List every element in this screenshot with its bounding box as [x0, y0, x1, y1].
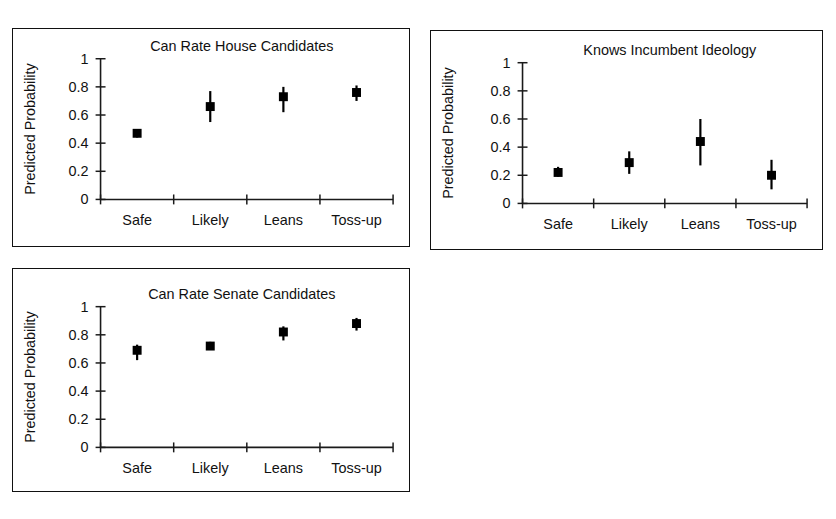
y-tick-label: 0.6 [69, 355, 89, 371]
y-tick-label: 0.4 [69, 383, 89, 399]
y-axis-label: Predicted Probability [22, 62, 38, 194]
y-tick-label: 0.6 [69, 107, 89, 123]
x-tick-label: Leans [681, 216, 720, 232]
y-tick-label: 0 [81, 191, 89, 207]
y-axis-label: Predicted Probability [22, 310, 38, 442]
y-axis-label: Predicted Probability [440, 66, 456, 198]
data-point-marker [352, 88, 361, 97]
data-point-marker [279, 92, 288, 101]
y-tick-label: 0.8 [69, 79, 89, 95]
panel-knows-incumbent-ideology: Knows Incumbent IdeologyPredicted Probab… [430, 30, 823, 250]
data-point-marker [133, 129, 142, 138]
y-tick-label: 1 [81, 51, 89, 67]
data-point-marker [554, 168, 563, 177]
x-tick-label: Likely [611, 216, 649, 232]
data-point-marker [696, 137, 705, 146]
y-tick-label: 0.8 [491, 83, 511, 99]
x-tick-label: Leans [264, 212, 303, 228]
x-tick-label: Safe [543, 216, 573, 232]
y-tick-label: 0.8 [69, 327, 89, 343]
panel-can-rate-house-candidates: Can Rate House CandidatesPredicted Proba… [12, 28, 410, 247]
y-tick-label: 0.2 [69, 411, 89, 427]
panel-can-rate-senate-candidates: Can Rate Senate CandidatesPredicted Prob… [12, 268, 410, 492]
chart-title: Can Rate Senate Candidates [148, 286, 335, 302]
plot-ideology: Knows Incumbent IdeologyPredicted Probab… [431, 31, 822, 249]
y-tick-label: 1 [503, 55, 511, 71]
x-tick-label: Likely [192, 460, 230, 476]
x-tick-label: Toss-up [746, 216, 796, 232]
figure-three-panel-predicted-probability: Can Rate House CandidatesPredicted Proba… [0, 0, 836, 519]
y-tick-label: 0 [81, 439, 89, 455]
y-tick-label: 1 [81, 299, 89, 315]
data-point-marker [133, 346, 142, 355]
x-tick-label: Leans [264, 460, 303, 476]
y-tick-label: 0.4 [69, 135, 89, 151]
data-point-marker [279, 328, 288, 337]
plot-house: Can Rate House CandidatesPredicted Proba… [13, 29, 409, 246]
x-tick-label: Safe [122, 460, 152, 476]
x-tick-label: Toss-up [331, 460, 381, 476]
data-point-marker [206, 102, 215, 111]
plot-senate: Can Rate Senate CandidatesPredicted Prob… [13, 269, 409, 491]
y-tick-label: 0.2 [69, 163, 89, 179]
x-tick-label: Safe [122, 212, 152, 228]
chart-title: Knows Incumbent Ideology [583, 42, 757, 58]
data-point-marker [206, 342, 215, 351]
data-point-marker [767, 171, 776, 180]
y-tick-label: 0.2 [491, 167, 511, 183]
y-tick-label: 0.4 [491, 139, 511, 155]
chart-title: Can Rate House Candidates [150, 38, 333, 54]
y-tick-label: 0 [503, 195, 511, 211]
x-tick-label: Likely [192, 212, 230, 228]
y-tick-label: 0.6 [491, 111, 511, 127]
data-point-marker [625, 158, 634, 167]
x-tick-label: Toss-up [331, 212, 381, 228]
data-point-marker [352, 319, 361, 328]
